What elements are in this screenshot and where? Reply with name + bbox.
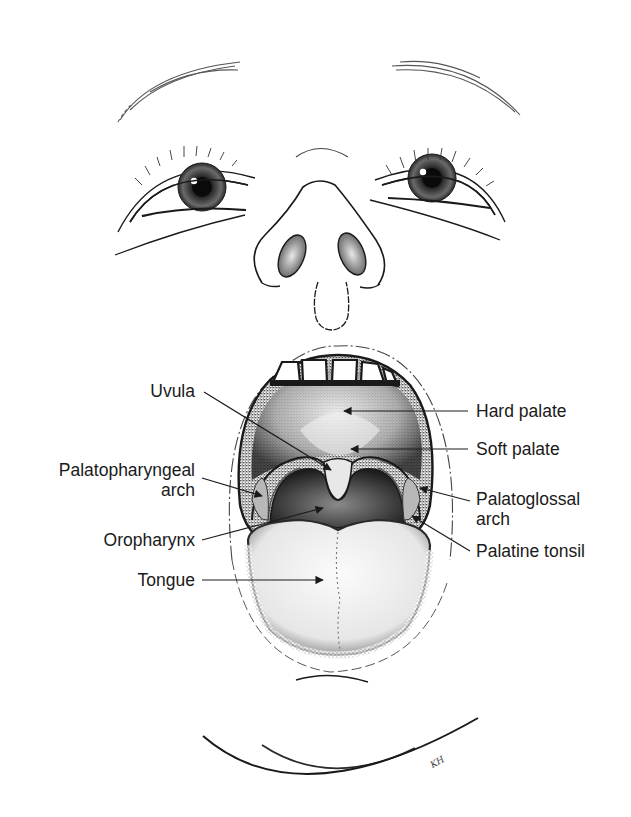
label-palatine-tonsil: Palatine tonsil [476,541,585,561]
label-uvula: Uvula [150,381,195,401]
left-eyebrow [118,62,240,122]
label-hard-palate: Hard palate [476,401,566,421]
label-soft-palate: Soft palate [476,439,560,459]
right-nostril [333,229,372,279]
columella [314,282,348,330]
jaw-inner-curve [262,745,415,768]
right-eye [370,148,505,240]
left-nostril [273,231,312,281]
mouth [239,355,433,655]
gum-line [270,380,400,386]
left-eye [115,146,255,255]
label-tongue: Tongue [138,570,195,590]
nose-bridge-line [296,149,348,158]
label-palatoglossal-arch: Palatoglossal arch [476,489,580,529]
anatomy-diagram: Uvula Palatopharyngeal arch Oropharynx T… [0,0,631,817]
label-palatopharyngeal-arch: Palatopharyngeal arch [59,460,195,500]
chin-crease [296,675,368,682]
nose [254,181,384,330]
label-oropharynx: Oropharynx [104,530,195,550]
right-eyebrow [392,61,520,115]
